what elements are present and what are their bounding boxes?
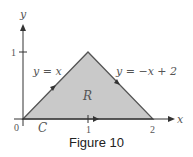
region-label: R [82, 89, 92, 103]
left-edge-label: y = x [32, 65, 62, 78]
right-edge-label: y = −x + 2 [115, 65, 177, 78]
x-tick-label-2: 2 [150, 124, 155, 135]
x-axis-label: x [177, 113, 184, 126]
figure-canvas: y x 0 1 1 2 y = x y = −x + 2 R C [0, 0, 193, 157]
x-tick-label-1: 1 [86, 124, 91, 135]
y-axis-label: y [19, 8, 27, 21]
y-tick-label-1: 1 [11, 47, 16, 58]
region-r [23, 52, 153, 119]
figure-caption: Figure 10 [0, 135, 193, 150]
boundary-label: C [38, 121, 47, 135]
y-axis-arrow-icon [20, 24, 26, 31]
origin-label: 0 [14, 122, 19, 133]
x-axis-arrow-icon [168, 116, 175, 122]
